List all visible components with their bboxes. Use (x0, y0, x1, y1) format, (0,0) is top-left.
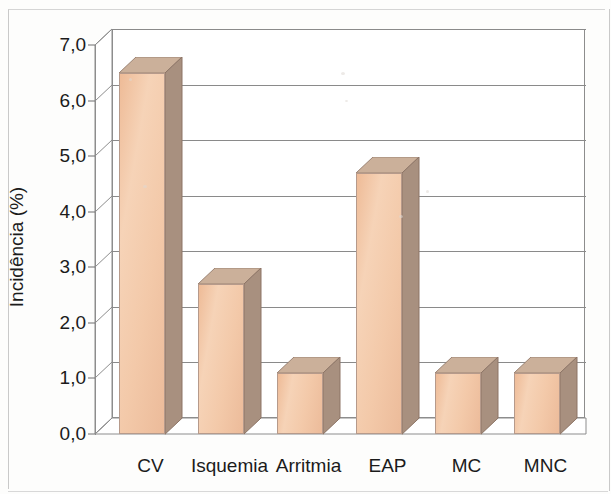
y-tick-depth-line (95, 417, 114, 434)
y-tick-label: 3,0 (60, 256, 86, 278)
y-tick-mark (88, 378, 95, 379)
y-tick-mark (88, 434, 95, 435)
y-axis-title: Incidência (%) (6, 187, 28, 307)
bar-arritmia[interactable] (277, 357, 340, 434)
x-tick-label-cv: CV (137, 455, 163, 477)
y-tick-mark (88, 211, 95, 212)
bar-front-face (435, 373, 481, 434)
y-tick-depth-line (95, 250, 114, 267)
gridline (112, 29, 586, 30)
y-tick-label: 0,0 (60, 423, 86, 445)
y-tick-mark (88, 100, 95, 101)
y-tick-label: 2,0 (60, 312, 86, 334)
bar-cv[interactable] (119, 57, 182, 434)
y-tick-label: 1,0 (60, 367, 86, 389)
x-tick-label-isquemia: Isquemia (191, 455, 268, 477)
y-tick-label: 7,0 (60, 34, 86, 56)
scan-speck (399, 215, 403, 218)
bar-front-face (277, 373, 323, 434)
scan-speck (426, 190, 429, 193)
bar-front-face (198, 284, 244, 434)
y-tick-mark (88, 267, 95, 268)
y-tick-label: 4,0 (60, 201, 86, 223)
y-tick-depth-line (95, 139, 114, 156)
y-tick-depth-line (95, 361, 114, 378)
y-tick-mark (88, 322, 95, 323)
bar-front-face (514, 373, 560, 434)
x-tick-label-eap: EAP (368, 455, 406, 477)
y-tick-depth-line (95, 28, 114, 45)
bar-front-face (356, 173, 402, 434)
bar-mc[interactable] (435, 357, 498, 434)
bar-eap[interactable] (356, 157, 419, 434)
x-tick-label-mnc: MNC (524, 455, 567, 477)
chart-figure: 0,01,02,03,04,05,06,07,0 Incidência (%) … (0, 0, 611, 494)
bar-isquemia[interactable] (198, 268, 261, 434)
y-tick-depth-line (95, 195, 114, 212)
scan-speck (143, 185, 147, 188)
y-tick-mark (88, 156, 95, 157)
y-tick-label: 6,0 (60, 90, 86, 112)
y-tick-mark (88, 45, 95, 46)
y-tick-depth-line (95, 84, 114, 101)
scan-speck (341, 72, 345, 75)
x-tick-label-arritmia: Arritmia (276, 455, 341, 477)
scan-speck (345, 100, 348, 102)
plot-area: 0,01,02,03,04,05,06,07,0 Incidência (%) … (0, 0, 611, 494)
bar-front-face (119, 73, 165, 434)
y-axis-line (95, 45, 96, 435)
y-tick-label: 5,0 (60, 145, 86, 167)
bar-mnc[interactable] (514, 357, 577, 434)
scan-speck (129, 78, 132, 81)
y-tick-depth-line (95, 306, 114, 323)
x-tick-label-mc: MC (452, 455, 482, 477)
